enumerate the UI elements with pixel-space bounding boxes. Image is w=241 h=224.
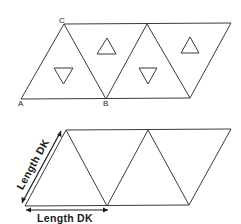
top-outline [21,23,231,99]
down-triangle-icon [139,68,157,84]
vertex-label-a: A [18,99,24,108]
top-net: C A B [18,16,231,108]
horizontal-length-label: Length DK [37,212,93,224]
bottom-edge-1 [66,130,107,206]
bottom-edge-2 [107,130,148,206]
diagram-canvas: C A B Length DK Length DK [0,0,241,224]
up-triangle-icon [97,38,116,54]
bottom-edge-3 [148,130,189,205]
up-triangle-icon [181,37,199,53]
vertex-label-b: B [103,99,108,108]
top-edge-apex-right [147,24,190,98]
top-edge-b-apex [106,24,147,99]
down-triangle-icon [54,68,73,84]
top-edge-cb [64,24,106,99]
bottom-net: Length DK Length DK [14,129,231,224]
vertex-label-c: C [59,16,65,25]
